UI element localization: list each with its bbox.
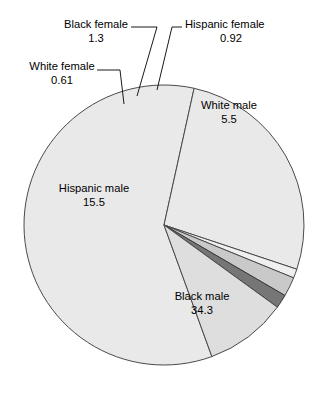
slice-label-white-male: White male 5.5 <box>186 99 272 126</box>
slice-label-black-female-name: Black female <box>36 18 156 32</box>
slice-label-white-female-name: White female <box>6 60 118 74</box>
slice-label-black-male-value: 34.3 <box>150 304 254 318</box>
slice-label-white-female-value: 0.61 <box>6 74 118 88</box>
slice-label-black-female: Black female 1.3 <box>36 18 156 45</box>
slice-label-hispanic-female-value: 0.92 <box>185 32 277 46</box>
slice-label-hispanic-male-value: 15.5 <box>40 196 148 210</box>
leader-line-hispanic-female-stem <box>157 27 172 90</box>
slice-label-hispanic-female: Hispanic female 0.92 <box>185 18 310 45</box>
slice-label-white-female: White female 0.61 <box>6 60 118 87</box>
slice-label-white-male-value: 5.5 <box>186 113 272 127</box>
slice-label-black-female-value: 1.3 <box>36 32 156 46</box>
slice-label-hispanic-male-name: Hispanic male <box>40 182 148 196</box>
slice-label-white-male-name: White male <box>186 99 272 113</box>
slice-label-hispanic-male: Hispanic male 15.5 <box>40 182 148 209</box>
slice-label-black-male-name: Black male <box>150 290 254 304</box>
pie-chart: Black female 1.3 White female 0.61 Hispa… <box>0 0 325 398</box>
slice-label-hispanic-female-name: Hispanic female <box>185 18 310 32</box>
slice-label-black-male: Black male 34.3 <box>150 290 254 317</box>
